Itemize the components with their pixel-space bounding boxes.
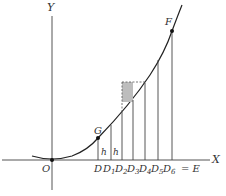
- base-label-D1: D1: [102, 163, 116, 176]
- parabola-curve: [32, 5, 182, 159]
- diagram-canvas: Y X O G F h h D D1 D2 D3 D4 D5 D6 = E: [0, 0, 226, 196]
- point-F-label: F: [164, 16, 173, 27]
- origin-point: [50, 158, 54, 162]
- shaded-strip: [122, 82, 133, 102]
- point-G-label: G: [94, 125, 102, 136]
- end-equation-label: = E: [181, 163, 201, 174]
- base-label-D2: D2: [114, 163, 128, 176]
- base-label-D6: D6: [162, 163, 176, 176]
- x-axis-label: X: [211, 153, 221, 166]
- base-label-D5: D5: [150, 163, 164, 176]
- strip-label-h-1: h: [101, 147, 107, 157]
- point-F: [170, 29, 174, 33]
- base-label-D: D: [93, 163, 102, 174]
- point-G: [96, 136, 100, 140]
- strip-label-h-2: h: [113, 147, 119, 157]
- base-label-D4: D4: [138, 163, 152, 176]
- base-label-D3: D3: [126, 163, 140, 176]
- riemann-sum-diagram: Y X O G F h h D D1 D2 D3 D4 D5 D6 = E: [0, 0, 226, 196]
- y-axis-label: Y: [47, 1, 56, 14]
- origin-label: O: [42, 163, 50, 174]
